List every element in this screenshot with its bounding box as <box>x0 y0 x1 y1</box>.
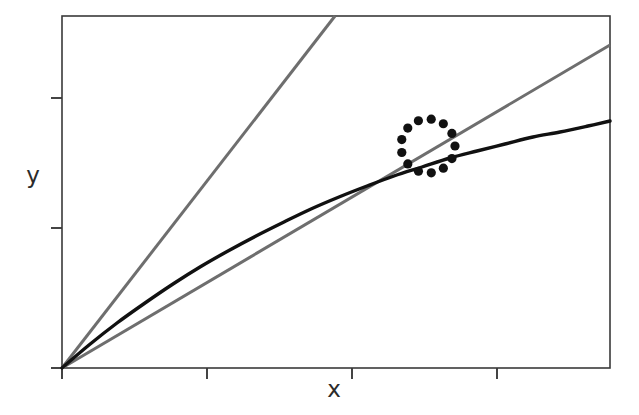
highlight-dot <box>403 124 412 133</box>
highlight-dot <box>447 129 456 138</box>
highlight-dot <box>427 115 436 124</box>
y-axis-ticks <box>51 98 62 368</box>
plot-canvas: y x <box>0 0 639 415</box>
highlight-dot <box>439 119 448 128</box>
x-axis-label: x <box>327 376 341 402</box>
highlight-dot <box>447 154 456 163</box>
plot-frame <box>62 16 610 368</box>
highlight-dot <box>450 141 459 150</box>
highlight-dot <box>414 167 423 176</box>
highlight-dot <box>414 116 423 125</box>
highlight-dot <box>427 168 436 177</box>
highlight-dot <box>403 159 412 168</box>
highlight-dot <box>397 148 406 157</box>
highlight-dot <box>397 135 406 144</box>
chart-figure: y x <box>0 0 639 415</box>
x-axis-ticks <box>62 368 497 379</box>
y-axis-label: y <box>26 162 40 188</box>
highlight-dot <box>439 164 448 173</box>
